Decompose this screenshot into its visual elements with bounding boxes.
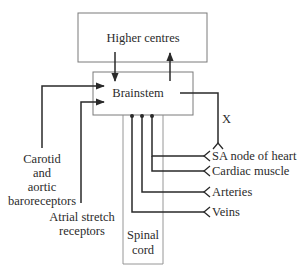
spinal-cord-box: Spinal cord xyxy=(123,115,163,264)
baroreceptor-reflex-diagram: Higher centres Brainstem Spinal cord Car… xyxy=(0,0,304,277)
higher-centres-label: Higher centres xyxy=(106,31,179,45)
sa-node-terminal-fork-icon xyxy=(204,151,210,161)
svg-text:and: and xyxy=(33,166,52,180)
arteries-label: Arteries xyxy=(212,185,252,199)
sa-node-efferent xyxy=(152,116,205,156)
svg-text:Carotid: Carotid xyxy=(23,152,61,166)
pathway-marker-x: X xyxy=(222,112,231,126)
atrial-afferent-arrow xyxy=(81,102,104,203)
carotid-aortic-baroreceptors-label: Carotid and aortic baroreceptors xyxy=(8,152,76,208)
brainstem-label: Brainstem xyxy=(112,86,164,100)
cardiac-muscle-terminal-fork-icon xyxy=(204,166,210,176)
cardiac-muscle-efferent xyxy=(152,156,205,171)
veins-terminal-fork-icon xyxy=(204,207,210,217)
cardiac-muscle-label: Cardiac muscle xyxy=(212,164,290,178)
svg-text:receptors: receptors xyxy=(59,224,105,238)
spinal-cord-label-line1: Spinal xyxy=(127,228,159,242)
veins-efferent xyxy=(132,116,205,212)
sa-node-label: SA node of heart xyxy=(212,149,297,163)
brainstem-box: Brainstem xyxy=(93,72,193,115)
spinal-cord-label-line2: cord xyxy=(132,243,155,257)
higher-centres-box: Higher centres xyxy=(78,13,207,62)
svg-text:baroreceptors: baroreceptors xyxy=(8,194,76,208)
veins-label: Veins xyxy=(212,205,240,219)
atrial-stretch-receptors-label: Atrial stretch receptors xyxy=(49,210,115,238)
vagal-pathway-x xyxy=(180,93,218,143)
arteries-terminal-fork-icon xyxy=(204,187,210,197)
svg-text:Atrial stretch: Atrial stretch xyxy=(49,210,115,224)
carotid-afferent-arrow xyxy=(42,86,104,148)
svg-text:aortic: aortic xyxy=(28,180,57,194)
